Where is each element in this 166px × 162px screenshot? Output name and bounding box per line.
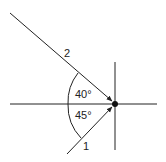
ray-2 <box>10 13 112 101</box>
angle-arc <box>68 73 81 138</box>
angle-label-40: 40° <box>75 88 92 100</box>
diagram-canvas: 2 1 40° 45° <box>0 0 166 162</box>
angle-label-45: 45° <box>75 109 92 121</box>
intersection-point <box>112 101 118 107</box>
ray-2-label: 2 <box>64 47 70 59</box>
ray-1-label: 1 <box>83 140 89 152</box>
